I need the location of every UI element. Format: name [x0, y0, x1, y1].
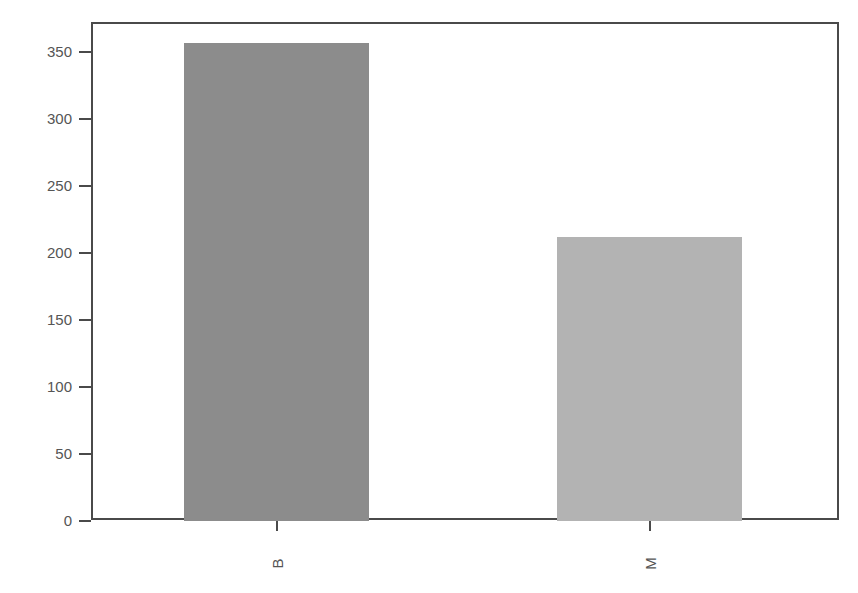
bar-m: [557, 237, 742, 521]
y-tick: [79, 453, 91, 455]
y-tick-label: 200: [6, 245, 72, 261]
x-tick-label: B: [268, 554, 285, 574]
y-tick-label: 100: [6, 379, 72, 395]
y-tick: [79, 319, 91, 321]
y-tick-label: 0: [6, 513, 72, 529]
y-tick-label: 50: [6, 446, 72, 462]
y-tick-label: 300: [6, 111, 72, 127]
y-tick-label: 250: [6, 178, 72, 194]
y-tick: [79, 520, 91, 522]
y-tick: [79, 252, 91, 254]
x-tick-label: M: [641, 554, 658, 574]
x-tick: [649, 521, 651, 531]
x-tick: [276, 521, 278, 531]
y-tick: [79, 51, 91, 53]
y-tick: [79, 185, 91, 187]
y-tick-label: 150: [6, 312, 72, 328]
bar-b: [184, 43, 369, 521]
y-tick: [79, 118, 91, 120]
y-tick-label: 350: [6, 44, 72, 60]
y-tick: [79, 386, 91, 388]
